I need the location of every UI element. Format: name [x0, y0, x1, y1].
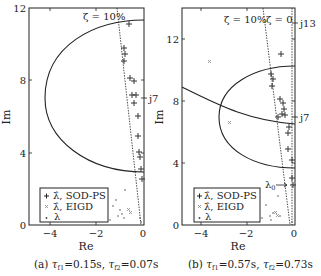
xtick-0: 0	[291, 228, 297, 239]
ytick-12: 12	[13, 3, 26, 14]
legend: λ̂, SOD-PS λ̂, EIGD λ	[194, 188, 260, 222]
caption-a: (a) τf1=0.15s, τf2=0.07s	[34, 258, 158, 272]
xtick-neg2: −2	[239, 228, 254, 239]
figure: 12 8 4 0 −4 −2 0 j7 Re Im ζ = 10%	[0, 0, 321, 276]
lambda0-label: λ0	[265, 179, 275, 192]
ylabel: Im	[153, 109, 166, 124]
legend: λ̂, SOD-PS λ̂, EIGD λ	[40, 188, 108, 222]
panel-b: 12 8 4 0 −4 −2 0 j13 j7 Re Im ζ = 10% ζ …	[153, 8, 316, 272]
ytick-0: 0	[173, 220, 179, 231]
xlabel: Re	[231, 240, 246, 253]
xtick-neg2: −2	[89, 228, 104, 239]
zeta-10-label: ζ = 10%	[224, 14, 266, 25]
ytick-4: 4	[20, 148, 26, 159]
ylabel: Im	[0, 109, 13, 124]
j7-label: j7	[299, 112, 309, 123]
eigd-markers	[127, 208, 132, 214]
zeta-10-label: ζ = 10%	[83, 11, 125, 22]
j13-label: j13	[299, 18, 316, 29]
xtick-neg4: −4	[194, 228, 209, 239]
legend-lambda: λ	[205, 211, 212, 222]
ytick-4: 4	[173, 158, 179, 169]
j7-label: j7	[148, 93, 158, 104]
xlabel: Re	[79, 240, 94, 253]
ytick-8: 8	[20, 75, 26, 86]
zeta-0-label: ζ = 0	[266, 14, 293, 25]
boundary-curve	[45, 20, 144, 172]
panel-a: 12 8 4 0 −4 −2 0 j7 Re Im ζ = 10%	[0, 3, 158, 272]
caption-b: (b) τf1=0.57s, τf2=0.73s	[188, 258, 313, 272]
ytick-8: 8	[173, 96, 179, 107]
lambda0-arrow	[276, 183, 287, 187]
ytick-0: 0	[20, 220, 26, 231]
xtick-neg4: −4	[43, 228, 58, 239]
sodps-markers	[121, 21, 145, 182]
ytick-12: 12	[166, 34, 179, 45]
y-ticks	[182, 23, 298, 163]
legend-sodps: λ̂, SOD-PS	[53, 190, 106, 201]
legend-lambda: λ	[54, 211, 61, 222]
legend-sodps: λ̂, SOD-PS	[204, 190, 257, 201]
xtick-0: 0	[140, 228, 146, 239]
boundary-curve-ellipse	[219, 66, 295, 168]
